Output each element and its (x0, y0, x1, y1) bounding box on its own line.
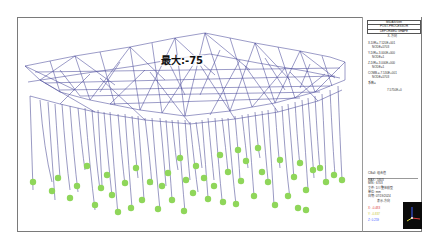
legend-axis-x: X: -0.483 (368, 207, 380, 211)
space-truss-roof (25, 33, 345, 124)
legend-header: MIDAS/Gen POST-PROCESSOR DEFORMED SHAPE (367, 20, 421, 34)
legend-line: NODE=1 (372, 66, 384, 70)
legend-line: NODE=1 (372, 56, 384, 60)
axis-triad-icon (403, 202, 422, 229)
legend-date: 日期: 07/19/2024 (368, 195, 391, 199)
max-displacement-label: 最大:-75 (160, 55, 204, 66)
truss-model-view[interactable] (0, 0, 422, 245)
legend-min-node: MIN : 6703 (368, 182, 383, 186)
legend-line: NODE=5703 (372, 76, 389, 80)
legend-axis-z: Z: 0.259 (368, 219, 379, 223)
legend-axis-y: Y: -0.837 (368, 213, 380, 217)
legend-direction: X-方向 (363, 35, 421, 39)
legend-load-case: CBall: 组合值 (368, 172, 386, 176)
columns (30, 86, 342, 215)
legend-scale-value: 7.5750E+0 (387, 89, 402, 93)
legend-view-direction: 表示-方向 (377, 200, 390, 204)
legend-result-type: DEFORMED SHAPE (368, 30, 420, 33)
view-axis-indicator (403, 202, 422, 229)
legend-panel: MIDAS/Gen POST-PROCESSOR DEFORMED SHAPE … (362, 17, 422, 232)
legend-line: 系数= (368, 82, 376, 86)
legend-line: NODE=5703 (372, 46, 389, 50)
